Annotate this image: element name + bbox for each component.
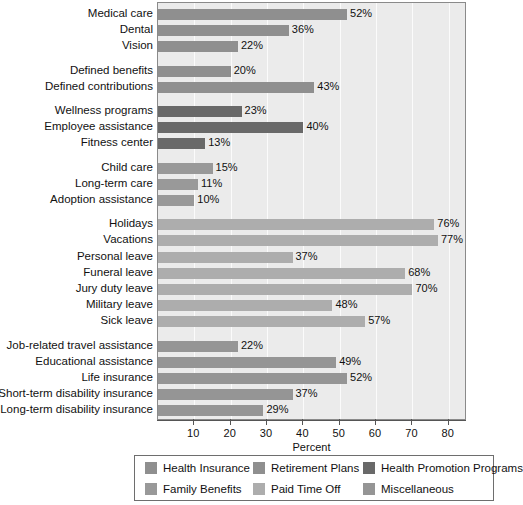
bar-row: 36% xyxy=(158,25,467,36)
bar xyxy=(158,219,434,230)
bar-value-label: 22% xyxy=(241,340,263,351)
legend-item[interactable]: Health Insurance xyxy=(145,458,250,477)
bar-value-label: 29% xyxy=(266,404,288,415)
x-tick-label: 60 xyxy=(355,427,395,439)
x-tick-label: 40 xyxy=(282,427,322,439)
legend-row: Family BenefitsPaid Time OffMiscellaneou… xyxy=(135,479,493,498)
bar-value-label: 37% xyxy=(296,388,318,399)
bar xyxy=(158,106,242,117)
category-label: Short-term disability insurance xyxy=(0,388,153,399)
bar-row: 43% xyxy=(158,82,467,93)
legend-label: Paid Time Off xyxy=(271,483,340,495)
legend-item[interactable]: Miscellaneous xyxy=(363,479,454,498)
bar-value-label: 36% xyxy=(292,24,314,35)
bar-row: 49% xyxy=(158,357,467,368)
category-label: Educational assistance xyxy=(0,356,153,367)
bar-row: 10% xyxy=(158,195,467,206)
legend-item[interactable]: Family Benefits xyxy=(145,479,242,498)
bar-value-label: 40% xyxy=(306,121,328,132)
bar-value-label: 20% xyxy=(234,65,256,76)
bar xyxy=(158,179,198,190)
bar xyxy=(158,9,347,20)
bar-row: 70% xyxy=(158,284,467,295)
category-label: Defined contributions xyxy=(0,81,153,92)
category-label: Medical care xyxy=(0,8,153,19)
bar-row: 57% xyxy=(158,316,467,327)
x-tick xyxy=(339,419,340,425)
bar xyxy=(158,373,347,384)
bar xyxy=(158,284,412,295)
legend-swatch xyxy=(253,483,265,495)
legend-item[interactable]: Health Promotion Programs xyxy=(363,458,523,477)
category-label: Adoption assistance xyxy=(0,194,153,205)
x-axis-title: Percent xyxy=(157,441,466,453)
bar xyxy=(158,405,263,416)
legend-item[interactable]: Retirement Plans xyxy=(253,458,359,477)
legend-swatch xyxy=(363,483,375,495)
bar-row: 22% xyxy=(158,341,467,352)
legend-swatch xyxy=(145,462,157,474)
category-label: Sick leave xyxy=(0,315,153,326)
bar-value-label: 52% xyxy=(350,372,372,383)
x-tick xyxy=(230,419,231,425)
category-label: Wellness programs xyxy=(0,105,153,116)
bar xyxy=(158,235,438,246)
category-label: Jury duty leave xyxy=(0,283,153,294)
x-tick-label: 10 xyxy=(173,427,213,439)
category-label: Vacations xyxy=(0,234,153,245)
bar xyxy=(158,41,238,52)
category-label: Job-related travel assistance xyxy=(0,340,153,351)
bar-value-label: 22% xyxy=(241,40,263,51)
bar-value-label: 11% xyxy=(201,178,222,189)
category-label: Personal leave xyxy=(0,251,153,262)
x-tick xyxy=(302,419,303,425)
bar-row: 29% xyxy=(158,405,467,416)
legend-label: Health Promotion Programs xyxy=(381,462,523,474)
category-label: Dental xyxy=(0,24,153,35)
x-tick-label: 50 xyxy=(319,427,359,439)
plot-area: 52%36%22%20%43%23%40%13%15%11%10%76%77%3… xyxy=(157,2,466,420)
bar xyxy=(158,163,213,174)
bar xyxy=(158,300,332,311)
bar-row: 52% xyxy=(158,9,467,20)
legend-item[interactable]: Paid Time Off xyxy=(253,479,340,498)
bar-row: 77% xyxy=(158,235,467,246)
bar-row: 68% xyxy=(158,268,467,279)
category-label: Fitness center xyxy=(0,137,153,148)
bar-value-label: 13% xyxy=(208,137,230,148)
legend-row: Health InsuranceRetirement PlansHealth P… xyxy=(135,458,493,477)
x-tick xyxy=(193,419,194,425)
bar xyxy=(158,357,336,368)
legend-label: Health Insurance xyxy=(163,462,250,474)
x-tick-label: 80 xyxy=(428,427,468,439)
bar xyxy=(158,252,293,263)
bar-value-label: 68% xyxy=(408,267,430,278)
bar xyxy=(158,389,293,400)
bar xyxy=(158,316,365,327)
bar xyxy=(158,66,231,77)
bar-row: 37% xyxy=(158,389,467,400)
bar xyxy=(158,341,238,352)
bar xyxy=(158,82,314,93)
x-tick-label: 70 xyxy=(391,427,431,439)
legend-label: Family Benefits xyxy=(163,483,242,495)
legend-swatch xyxy=(253,462,265,474)
category-label: Life insurance xyxy=(0,372,153,383)
category-label: Employee assistance xyxy=(0,121,153,132)
x-tick-label: 20 xyxy=(210,427,250,439)
category-label: Long-term disability insurance xyxy=(0,404,153,415)
bar-row: 23% xyxy=(158,106,467,117)
bar-value-label: 52% xyxy=(350,8,372,19)
bar-value-label: 43% xyxy=(317,81,339,92)
category-label: Defined benefits xyxy=(0,65,153,76)
bar-row: 13% xyxy=(158,138,467,149)
x-tick xyxy=(266,419,267,425)
bar-row: 20% xyxy=(158,66,467,77)
bar-value-label: 10% xyxy=(197,194,219,205)
chart-legend: Health InsuranceRetirement PlansHealth P… xyxy=(134,455,494,501)
category-label: Child care xyxy=(0,162,153,173)
x-axis-line xyxy=(157,420,466,421)
bar-row: 22% xyxy=(158,41,467,52)
bar-value-label: 77% xyxy=(441,234,463,245)
